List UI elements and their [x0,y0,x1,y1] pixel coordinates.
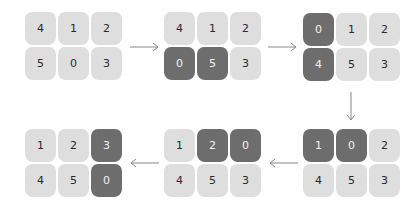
tile-highlighted: 0 [230,129,261,162]
tile-highlighted: 0 [91,164,122,197]
tile-highlighted: 5 [197,47,228,80]
arrow-left-icon [129,158,159,168]
puzzle-state-1: 4 1 2 5 0 3 [25,12,124,80]
tile: 1 [336,13,367,46]
tile-highlighted: 1 [303,129,334,162]
tile: 1 [58,12,89,45]
tile: 2 [230,12,261,45]
tile: 3 [369,48,400,81]
tile: 5 [336,164,367,197]
arrow-right-icon [268,42,298,52]
tile: 3 [369,164,400,197]
puzzle-state-6: 1 2 3 4 5 0 [25,129,124,197]
tile: 5 [197,164,228,197]
tile: 1 [197,12,228,45]
tile-highlighted: 0 [336,129,367,162]
tile: 3 [230,47,261,80]
arrow-left-icon [268,158,298,168]
tile: 1 [164,129,195,162]
tile-highlighted: 4 [303,48,334,81]
tile: 4 [25,164,56,197]
tile: 4 [25,12,56,45]
tile: 3 [230,164,261,197]
tile: 4 [164,12,195,45]
arrow-down-icon [346,92,356,122]
puzzle-state-4: 1 0 2 4 5 3 [303,129,402,197]
tile: 4 [303,164,334,197]
tile: 5 [25,47,56,80]
arrow-right-icon [130,42,160,52]
tile: 1 [25,129,56,162]
tile-highlighted: 2 [197,129,228,162]
tile-highlighted: 0 [303,13,334,46]
tile: 2 [91,12,122,45]
tile: 2 [58,129,89,162]
tile: 0 [58,47,89,80]
tile: 5 [336,48,367,81]
puzzle-state-2: 4 1 2 0 5 3 [164,12,263,80]
tile: 2 [369,13,400,46]
tile: 4 [164,164,195,197]
tile-highlighted: 0 [164,47,195,80]
tile-highlighted: 3 [91,129,122,162]
puzzle-state-5: 1 2 0 4 5 3 [164,129,263,197]
tile: 2 [369,129,400,162]
tile: 3 [91,47,122,80]
tile: 5 [58,164,89,197]
puzzle-state-3: 0 1 2 4 5 3 [303,13,402,81]
